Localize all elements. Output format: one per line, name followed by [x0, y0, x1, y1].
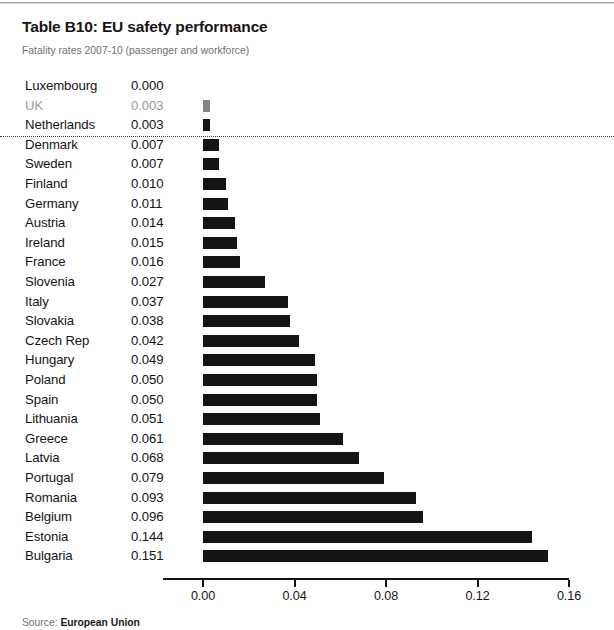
row-country-label: Romania	[25, 488, 77, 508]
row-bar	[203, 433, 343, 445]
chart-row: Ireland0.015	[0, 233, 614, 253]
row-country-label: Luxembourg	[25, 76, 97, 96]
row-country-label: Slovakia	[25, 311, 74, 331]
row-country-label: Slovenia	[25, 272, 75, 292]
x-axis-tick-label: 0.04	[265, 589, 325, 603]
row-value-label: 0.003	[131, 115, 164, 135]
source-name: European Union	[60, 617, 140, 628]
x-axis-tick-label: 0.12	[448, 589, 508, 603]
row-bar	[203, 315, 290, 327]
row-bar	[203, 276, 265, 288]
row-bar	[203, 100, 210, 112]
row-bar	[203, 531, 532, 543]
row-value-label: 0.015	[131, 233, 164, 253]
row-bar	[203, 237, 237, 249]
row-bar	[203, 550, 548, 562]
chart-row: Estonia0.144	[0, 527, 614, 547]
chart-row: Poland0.050	[0, 370, 614, 390]
chart-row: Czech Rep0.042	[0, 331, 614, 351]
row-bar	[203, 198, 228, 210]
row-bar	[203, 374, 317, 386]
row-country-label: France	[25, 252, 65, 272]
row-country-label: Bulgaria	[25, 546, 73, 566]
row-value-label: 0.014	[131, 213, 164, 233]
row-value-label: 0.093	[131, 488, 164, 508]
row-value-label: 0.042	[131, 331, 164, 351]
row-country-label: Hungary	[25, 350, 74, 370]
chart-row: Lithuania0.051	[0, 409, 614, 429]
row-country-label: Belgium	[25, 507, 72, 527]
row-bar	[203, 158, 219, 170]
row-bar	[203, 452, 359, 464]
row-country-label: UK	[25, 96, 43, 116]
fatality-rate-bar-chart: Luxembourg0.000UK0.003Netherlands0.003De…	[0, 0, 614, 630]
row-bar	[203, 394, 317, 406]
x-axis-tick-label: 0.16	[539, 589, 599, 603]
chart-row: Greece0.061	[0, 429, 614, 449]
row-value-label: 0.061	[131, 429, 164, 449]
row-value-label: 0.038	[131, 311, 164, 331]
row-value-label: 0.003	[131, 96, 164, 116]
row-country-label: Lithuania	[25, 409, 78, 429]
row-country-label: Spain	[25, 390, 58, 410]
row-country-label: Latvia	[25, 448, 60, 468]
row-country-label: Estonia	[25, 527, 68, 547]
row-bar	[203, 178, 226, 190]
row-value-label: 0.027	[131, 272, 164, 292]
chart-row: Italy0.037	[0, 292, 614, 312]
row-country-label: Italy	[25, 292, 49, 312]
row-bar	[203, 217, 235, 229]
row-value-label: 0.050	[131, 370, 164, 390]
row-bar	[203, 139, 219, 151]
row-country-label: Denmark	[25, 135, 78, 155]
row-value-label: 0.011	[131, 194, 163, 214]
row-country-label: Greece	[25, 429, 68, 449]
row-value-label: 0.000	[131, 76, 164, 96]
source-label: Source:	[22, 617, 58, 628]
row-bar	[203, 119, 210, 131]
row-value-label: 0.050	[131, 390, 164, 410]
chart-row: Slovenia0.027	[0, 272, 614, 292]
row-country-label: Czech Rep	[25, 331, 89, 351]
row-bar	[203, 354, 315, 366]
row-country-label: Netherlands	[25, 115, 95, 135]
row-country-label: Ireland	[25, 233, 65, 253]
row-bar	[203, 256, 240, 268]
x-axis-tick-label: 0.00	[173, 589, 233, 603]
chart-row: Netherlands0.003	[0, 115, 614, 135]
row-value-label: 0.007	[131, 154, 164, 174]
row-country-label: Portugal	[25, 468, 73, 488]
row-value-label: 0.096	[131, 507, 164, 527]
x-axis-line	[163, 578, 569, 580]
row-country-label: Sweden	[25, 154, 72, 174]
x-axis-tick	[294, 580, 296, 587]
x-axis-tick	[568, 580, 570, 587]
chart-row: Finland0.010	[0, 174, 614, 194]
row-bar	[203, 472, 384, 484]
chart-row: Bulgaria0.151	[0, 546, 614, 566]
row-value-label: 0.037	[131, 292, 164, 312]
row-value-label: 0.007	[131, 135, 164, 155]
chart-row: Luxembourg0.000	[0, 76, 614, 96]
chart-row: Portugal0.079	[0, 468, 614, 488]
row-value-label: 0.049	[131, 350, 164, 370]
row-value-label: 0.068	[131, 448, 164, 468]
row-country-label: Finland	[25, 174, 68, 194]
x-axis-tick	[385, 580, 387, 587]
chart-row: Latvia0.068	[0, 448, 614, 468]
row-bar	[203, 413, 320, 425]
chart-row: France0.016	[0, 252, 614, 272]
chart-row: Hungary0.049	[0, 350, 614, 370]
row-value-label: 0.144	[131, 527, 164, 547]
x-axis-tick	[202, 580, 204, 587]
chart-row: Romania0.093	[0, 488, 614, 508]
chart-row: Austria0.014	[0, 213, 614, 233]
chart-row: Belgium0.096	[0, 507, 614, 527]
row-bar	[203, 511, 423, 523]
x-axis-tick-label: 0.08	[356, 589, 416, 603]
row-value-label: 0.010	[131, 174, 164, 194]
row-value-label: 0.151	[131, 546, 164, 566]
row-bar	[203, 492, 416, 504]
row-country-label: Poland	[25, 370, 65, 390]
row-bar	[203, 335, 299, 347]
